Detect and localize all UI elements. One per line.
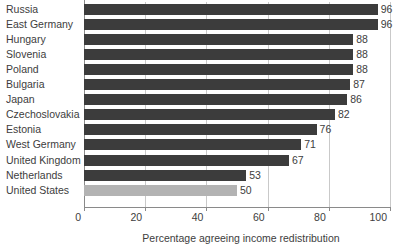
bar [84,49,353,60]
x-tick-60 [268,207,269,211]
x-tick-label-100: 100 [369,211,390,223]
bar-row: Netherlands53 [0,168,416,183]
x-tick-label-0: 0 [75,211,84,223]
bar [84,170,246,181]
x-tick-label-60: 60 [253,211,268,223]
bar-row: Czechoslovakia82 [0,107,416,122]
bar-value-label: 88 [356,32,368,46]
bar-row: Poland88 [0,62,416,77]
bar-value-label: 96 [381,2,393,16]
bar [84,139,301,150]
bar-row: United States50 [0,183,416,198]
x-tick-40 [206,207,207,211]
x-axis-title: Percentage agreeing income redistributio… [0,232,416,244]
bar-row: Slovenia88 [0,47,416,62]
bar-row: Bulgaria87 [0,77,416,92]
bar-value-label: 50 [240,183,252,197]
bar [84,109,335,120]
bar [84,19,378,30]
bar-row: Russia96 [0,2,416,17]
x-tick-label-40: 40 [192,211,207,223]
plot-area: Russia96East Germany96Hungary88Slovenia8… [0,0,416,211]
bar-value-label: 76 [320,122,332,136]
bar-row: Estonia76 [0,122,416,137]
bar-row: East Germany96 [0,17,416,32]
bar-row: Hungary88 [0,32,416,47]
bar-value-label: 88 [356,47,368,61]
bar-value-label: 96 [381,17,393,31]
x-tick-label-80: 80 [314,211,329,223]
x-tick-0 [84,207,85,211]
bar-row: Japan86 [0,92,416,107]
x-tick-100 [390,207,391,211]
x-tick-80 [329,207,330,211]
bar-row: United Kingdom67 [0,153,416,168]
bar-value-label: 82 [338,107,350,121]
bar-value-label: 86 [350,92,362,106]
bar [84,79,350,90]
bar-chart: Russia96East Germany96Hungary88Slovenia8… [0,0,416,251]
bar [84,155,289,166]
bar-value-label: 67 [292,153,304,167]
x-axis-line [84,207,391,208]
bar [84,94,347,105]
bar [84,34,353,45]
x-tick-20 [145,207,146,211]
x-tick-label-20: 20 [131,211,146,223]
bar-row: West Germany71 [0,137,416,152]
bar [84,4,378,15]
bar-value-label: 87 [353,77,365,91]
bar [84,185,237,196]
bar [84,64,353,75]
bar-value-label: 53 [249,168,261,182]
bar [84,124,317,135]
bar-value-label: 71 [304,137,316,151]
bar-value-label: 88 [356,62,368,76]
